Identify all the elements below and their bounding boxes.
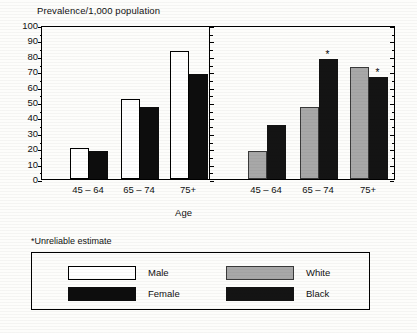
- y-tick-mark: [38, 73, 42, 74]
- y-tick-label: 50: [20, 98, 38, 108]
- bar-male-0: [70, 148, 89, 179]
- y-axis-tick-labels: 1009080706050403020100: [18, 26, 38, 180]
- bar-male-2: [170, 51, 189, 179]
- y-tick-mark: [210, 127, 213, 128]
- y-tick-label: 0: [20, 175, 38, 185]
- y-tick-mark: [210, 158, 213, 159]
- bar-white-1: [300, 107, 319, 179]
- y-tick-mark: [38, 119, 42, 120]
- unreliable-estimate-asterisk: *: [376, 70, 380, 76]
- legend-label-female: Female: [148, 288, 180, 299]
- y-tick-label: 90: [20, 36, 38, 46]
- bar-white-0: [248, 151, 267, 179]
- bar-black-0: [267, 125, 286, 179]
- y-tick-mark: [38, 89, 42, 90]
- y-tick-mark: [210, 58, 214, 59]
- panel-sex: [41, 26, 209, 180]
- x-axis-title-text: Age: [175, 207, 192, 218]
- legend: Male Female White Black: [31, 252, 370, 310]
- y-tick-mark: [390, 58, 394, 59]
- chart-figure: Prevalence/1,000 population 100908070605…: [0, 0, 417, 333]
- bar-female-0: [89, 151, 108, 179]
- y-tick-mark: [390, 135, 394, 136]
- y-tick-mark: [40, 35, 43, 36]
- white-outlined-swatch: [68, 266, 136, 280]
- y-tick-mark: [38, 104, 42, 105]
- legend-label-white: White: [306, 267, 330, 278]
- legend-label-black: Black: [306, 288, 329, 299]
- y-tick-mark: [392, 143, 395, 144]
- bar-female-2: [189, 74, 208, 179]
- y-tick-mark: [40, 173, 43, 174]
- y-tick-mark: [40, 143, 43, 144]
- y-tick-mark: [210, 119, 214, 120]
- y-tick-mark: [40, 158, 43, 159]
- y-tick-label: 30: [20, 129, 38, 139]
- y-tick-mark: [210, 42, 214, 43]
- y-tick-mark: [38, 42, 42, 43]
- x-tick-label: 75+: [338, 184, 398, 195]
- y-tick-mark: [392, 96, 395, 97]
- y-tick-mark: [390, 104, 394, 105]
- y-tick-label: 100: [20, 21, 38, 31]
- y-tick-mark: [38, 58, 42, 59]
- y-tick-mark: [40, 50, 43, 51]
- y-tick-mark: [210, 173, 213, 174]
- y-tick-mark: [210, 166, 214, 167]
- y-tick-mark: [210, 89, 214, 90]
- y-tick-mark: [390, 181, 394, 182]
- y-tick-label: 10: [20, 160, 38, 170]
- y-tick-mark: [40, 66, 43, 67]
- y-tick-mark: [210, 181, 214, 182]
- plot-area: **: [41, 26, 395, 180]
- gray-filled-swatch: [226, 266, 294, 280]
- y-tick-mark: [392, 127, 395, 128]
- y-tick-mark: [392, 158, 395, 159]
- y-tick-mark: [390, 166, 394, 167]
- y-tick-label: 70: [20, 67, 38, 77]
- y-tick-mark: [38, 27, 42, 28]
- y-tick-mark: [210, 135, 214, 136]
- y-tick-mark: [210, 50, 213, 51]
- y-tick-mark: [390, 119, 394, 120]
- y-tick-label: 60: [20, 83, 38, 93]
- y-tick-mark: [40, 96, 43, 97]
- footnote: *Unreliable estimate: [31, 236, 112, 246]
- y-tick-mark: [38, 135, 42, 136]
- y-tick-mark: [210, 96, 213, 97]
- x-axis-title: Age: [0, 207, 417, 218]
- y-tick-mark: [392, 112, 395, 113]
- y-tick-mark: [390, 89, 394, 90]
- y-tick-mark: [390, 27, 394, 28]
- y-tick-mark: [392, 81, 395, 82]
- panel-race: **: [209, 26, 395, 180]
- y-tick-mark: [210, 104, 214, 105]
- bar-female-1: [140, 107, 159, 179]
- y-tick-mark: [210, 66, 213, 67]
- y-tick-label: 80: [20, 52, 38, 62]
- x-tick-label: 45 – 64: [236, 184, 296, 195]
- y-tick-mark: [210, 81, 213, 82]
- y-axis-title: Prevalence/1,000 population: [37, 5, 160, 16]
- y-tick-mark: [210, 73, 214, 74]
- bar-white-2: [350, 67, 369, 179]
- y-tick-mark: [38, 150, 42, 151]
- black-filled-swatch: [68, 287, 136, 301]
- y-tick-mark: [392, 50, 395, 51]
- panel-sex-bars: [42, 27, 209, 179]
- y-tick-mark: [392, 173, 395, 174]
- x-tick-label: 75+: [158, 184, 218, 195]
- y-tick-mark: [390, 42, 394, 43]
- y-tick-mark: [390, 73, 394, 74]
- bar-black-2: [369, 77, 388, 179]
- y-tick-label: 20: [20, 144, 38, 154]
- y-tick-mark: [392, 66, 395, 67]
- legend-label-male: Male: [148, 267, 169, 278]
- y-tick-mark: [210, 27, 214, 28]
- y-tick-mark: [210, 143, 213, 144]
- y-tick-mark: [210, 35, 213, 36]
- y-tick-mark: [210, 150, 214, 151]
- y-tick-mark: [40, 112, 43, 113]
- y-tick-label: 40: [20, 113, 38, 123]
- y-tick-mark: [38, 166, 42, 167]
